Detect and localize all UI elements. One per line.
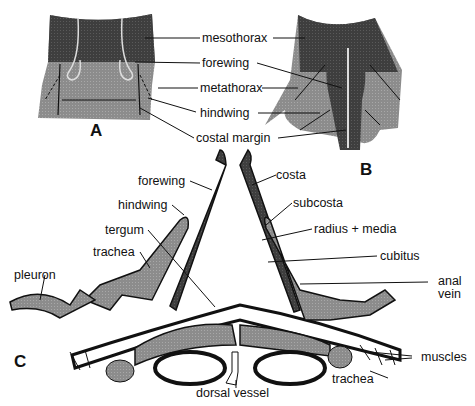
label-forewing: forewing (202, 56, 249, 70)
insect-wing-diagram: A B C mesothorax forewing metathorax hin… (0, 0, 475, 406)
label-hindwing: hindwing (200, 106, 249, 120)
panel-label-a: A (90, 121, 102, 141)
label-muscles: muscles (421, 350, 467, 364)
label-trachea-right: trachea (332, 372, 374, 386)
label-tergum: tergum (105, 223, 144, 237)
label-trachea-left: trachea (93, 245, 135, 259)
panel-b-drawing (265, 15, 402, 150)
panel-a-drawing (38, 14, 155, 120)
label-c-hindwing: hindwing (118, 198, 167, 212)
label-cubitus: cubitus (380, 249, 420, 263)
label-pleuron: pleuron (14, 268, 56, 282)
label-dorsal-vessel: dorsal vessel (196, 386, 269, 400)
label-subcosta: subcosta (293, 196, 343, 210)
panel-label-c: C (14, 352, 26, 372)
panel-label-b: B (360, 160, 372, 180)
label-costa: costa (276, 168, 306, 182)
panel-c-drawing (10, 150, 400, 385)
label-mesothorax: mesothorax (202, 31, 267, 45)
label-costal-margin: costal margin (196, 131, 270, 145)
label-metathorax: metathorax (200, 81, 263, 95)
label-c-forewing: forewing (138, 174, 185, 188)
label-vein: vein (438, 287, 461, 301)
label-radius-media: radius + media (314, 222, 396, 236)
label-anal: anal (438, 274, 462, 288)
